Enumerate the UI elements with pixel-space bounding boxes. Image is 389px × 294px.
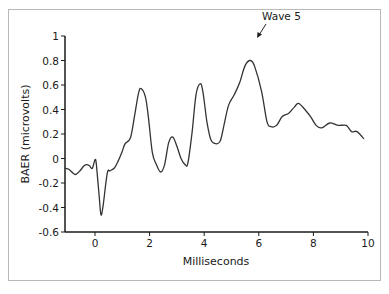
x-tick-label: 10 — [361, 237, 374, 249]
y-tick-label: 0.6 — [42, 79, 59, 91]
y-tick-label: 0.2 — [42, 128, 59, 140]
annotation-arrow-icon — [259, 24, 266, 35]
y-tick-label: 0 — [52, 153, 59, 165]
x-tick-label: 4 — [201, 237, 208, 249]
y-tick-label: -0.6 — [39, 226, 60, 238]
wave-5-label: Wave 5 — [262, 10, 301, 22]
baer-waveform-line — [65, 60, 364, 215]
y-tick-label: -0.4 — [39, 202, 60, 214]
y-tick-label: -0.2 — [39, 177, 60, 189]
x-axis: 0246810 — [65, 232, 375, 249]
baer-line-chart: -0.6-0.4-0.200.20.40.60.81 0246810 Milli… — [0, 0, 389, 294]
y-axis-title: BAER (microvolts) — [19, 85, 32, 184]
x-axis-title: Milliseconds — [183, 255, 250, 268]
x-tick-label: 6 — [255, 237, 262, 249]
y-tick-label: 1 — [52, 30, 59, 42]
x-tick-label: 8 — [310, 237, 317, 249]
arrowhead-icon — [257, 32, 262, 38]
wave-5-annotation: Wave 5 — [257, 10, 301, 38]
y-axis: -0.6-0.4-0.200.20.40.60.81 — [39, 30, 66, 238]
x-tick-label: 0 — [92, 237, 99, 249]
y-tick-label: 0.4 — [42, 104, 59, 116]
x-tick-label: 2 — [146, 237, 153, 249]
y-tick-label: 0.8 — [42, 55, 59, 67]
